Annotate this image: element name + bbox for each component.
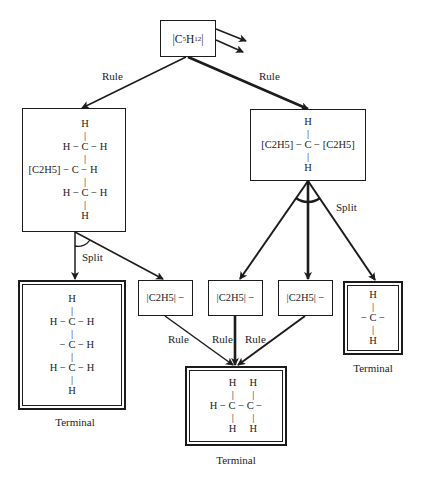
edge-label-root-left: Rule [102,70,123,82]
edge-right-terminal [308,181,375,280]
mol-row: H − C − H [45,186,125,200]
terminal-inner-border: H H | | H − C − C − | | H H [189,370,283,442]
mol-row: H [45,209,125,223]
edge-label-right-split: Split [336,201,357,213]
mol-row: − C − H [33,338,121,352]
edge-root-left [82,57,186,108]
fragment-label: |C2H5| − [279,291,332,305]
root-formula-part: H [186,32,194,46]
mol-row: H − C − H [23,315,121,329]
mol-row: H [251,115,365,129]
mol-row: | [45,200,125,209]
mol-row: | [23,375,121,384]
mol-row: | [23,352,121,361]
root-node: |C5H12| [160,20,216,57]
root-formula-part: 12 [194,32,201,46]
fragment-label: |C2H5| − [139,291,192,305]
edge-label-rule-1: Rule [168,333,189,345]
right-node: H | [C2H5] − C − [C2H5] | H [250,109,366,181]
edge-label-left-split: Split [82,251,103,263]
mol-row: | [23,329,121,338]
terminal-caption-right: Terminal [347,362,399,374]
root-formula-part: | [201,32,203,46]
terminal-inner-border: H | − C − | H [347,285,399,351]
mol-row: | [251,152,365,161]
terminal-node-left: H | H − C − H | − C − H | H − C − H | H [18,280,126,410]
mol-row: | [348,302,398,311]
fragment-node-1: |C2H5| − [138,280,193,316]
mol-row: H − C − H [23,361,121,375]
edge-label-rule-3: Rule [245,333,266,345]
fragment-node-3: |C2H5| − [278,280,333,316]
root-formula: |C5H12| [161,32,215,46]
mol-row: H H [204,422,282,436]
mol-row: [C2H5] − C − H [1,163,125,177]
mol-row: | [251,129,365,138]
mol-row: H [45,117,125,131]
edge-label-root-right: Rule [259,70,280,82]
fragment-label: |C2H5| − [209,291,262,305]
mol-row: [C2H5] − C − [C2H5] [251,138,365,152]
mol-row: | [45,177,125,186]
terminal-caption-left: Terminal [50,416,100,428]
fragment-node-2: |C2H5| − [208,280,263,316]
edge-label-rule-2: Rule [212,333,233,345]
left-node: H | H − C − H | [C2H5] − C − H | H − C −… [22,108,126,232]
mol-row: H − C − C − [190,399,282,413]
mol-row: H [23,384,121,398]
terminal-node-right: H | − C − | H [343,281,403,355]
terminal-inner-border: H | H − C − H | − C − H | H − C − H | H [22,284,122,406]
root-arrow-2 [216,40,243,52]
mol-row: | | [204,390,282,399]
mol-row: H [348,334,398,348]
terminal-node-bottom: H H | | H − C − C − | | H H [185,366,287,446]
mol-row: | [45,154,125,163]
root-formula-part: |C [172,32,182,46]
mol-row: | [45,131,125,140]
edge-root-right [188,57,308,109]
root-arrow-1 [216,29,246,41]
mol-row: H [348,288,398,302]
split-arc-left [75,240,90,246]
mol-row: H [251,161,365,175]
mol-row: H H [204,376,282,390]
mol-row: | [348,325,398,334]
mol-row: H [23,292,121,306]
mol-row: − C − [348,311,398,325]
mol-row: | | [204,413,282,422]
mol-row: H − C − H [45,140,125,154]
edge-right-frag1 [240,181,308,279]
terminal-caption-bottom: Terminal [210,454,262,466]
mol-row: | [23,306,121,315]
